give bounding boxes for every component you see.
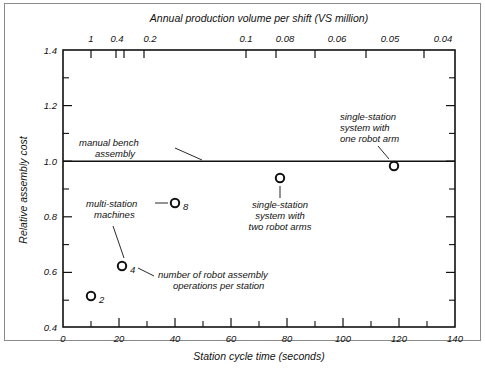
y-tick-label-1p2: 1.2: [44, 100, 58, 111]
two-arms-line2: system with: [255, 210, 305, 221]
annotation-manual-bench-assembly: manual bench assembly: [79, 137, 202, 160]
y-tick-label-1p0: 1.0: [44, 156, 58, 167]
top-tick-label-0p06: 0.06: [328, 33, 347, 44]
x-tick-label-100: 100: [335, 333, 352, 344]
y-tick-label-0p6: 0.6: [44, 266, 58, 277]
robot-operations-line1: number of robot assembly: [158, 269, 269, 280]
top-tick-label-0p2: 0.2: [143, 33, 157, 44]
top-tick-label-0p08: 0.08: [276, 33, 295, 44]
robot-operations-leader: [138, 268, 154, 276]
y-tick-label-0p4: 0.4: [44, 322, 57, 333]
x-tick-label-140: 140: [447, 333, 464, 344]
y-axis-minor-ticks: [63, 78, 69, 300]
top-tick-label-0p04: 0.04: [434, 33, 453, 44]
top-tick-label-0p1: 0.1: [239, 33, 252, 44]
data-point-label-2: 2: [98, 294, 105, 305]
x-tick-label-60: 60: [226, 333, 237, 344]
x-tick-label-0: 0: [60, 333, 66, 344]
annotation-multi-station-machines: multi-station machines: [86, 198, 168, 258]
y-axis-title: Relative assembly cost: [17, 135, 29, 243]
annotation-single-station-one-arm: single-station system with one robot arm: [340, 111, 399, 159]
manual-bench-assembly-line1: manual bench: [79, 137, 139, 148]
x-axis-tick-labels: 0 20 40 60 80 100 120 140: [60, 333, 463, 344]
data-point-label-4: 4: [130, 264, 135, 275]
figure-container: Annual production volume per shift (VS m…: [0, 0, 485, 377]
annotation-single-station-two-arms: single-station system with two robot arm…: [249, 186, 312, 232]
top-tick-label-0p4: 0.4: [110, 33, 123, 44]
data-point-one-robot-arm[interactable]: [390, 162, 398, 170]
data-point-label-8: 8: [183, 201, 189, 212]
top-tick-label-1: 1: [88, 33, 93, 44]
top-axis-ticks: [91, 50, 424, 58]
multi-station-machines-line2: machines: [94, 209, 135, 220]
x-axis-title: Station cycle time (seconds): [193, 350, 324, 362]
data-point-8-operations[interactable]: [171, 199, 179, 207]
x-tick-label-20: 20: [113, 333, 125, 344]
robot-operations-line2: operations per station: [173, 280, 264, 291]
one-arm-leader: [378, 146, 389, 159]
multi-station-machines-line1: multi-station: [86, 198, 137, 209]
x-tick-label-120: 120: [391, 333, 408, 344]
two-arms-line1: single-station: [252, 199, 308, 210]
data-point-4-operations[interactable]: [118, 262, 126, 270]
x-tick-label-40: 40: [170, 333, 181, 344]
annotation-number-of-robot-operations: number of robot assembly operations per …: [138, 268, 269, 291]
y-tick-label-0p8: 0.8: [44, 211, 58, 222]
two-arms-line3: two robot arms: [249, 221, 312, 232]
top-axis-tick-labels: 1 0.4 0.2 0.1 0.08 0.06 0.05 0.04: [88, 33, 452, 44]
data-point-two-robot-arms[interactable]: [276, 174, 284, 182]
manual-bench-assembly-line2: assembly: [95, 148, 136, 159]
assembly-cost-chart: Annual production volume per shift (VS m…: [0, 0, 485, 377]
top-axis-title: Annual production volume per shift (VS m…: [149, 12, 368, 24]
top-tick-label-0p05: 0.05: [381, 33, 400, 44]
x-axis-minor-ticks: [91, 321, 427, 327]
one-arm-line2: system with: [340, 122, 390, 133]
x-tick-label-80: 80: [282, 333, 293, 344]
manual-bench-assembly-leader: [175, 148, 202, 160]
right-axis-ticks: [446, 78, 455, 300]
data-point-2-operations[interactable]: [87, 292, 95, 300]
y-tick-label-1p4: 1.4: [44, 45, 57, 56]
one-arm-line1: single-station: [340, 111, 396, 122]
one-arm-line3: one robot arm: [340, 133, 399, 144]
multi-station-machines-leader-to-4: [113, 226, 124, 258]
y-axis-tick-labels: 1.4 1.2 1.0 0.8 0.6 0.4: [44, 45, 58, 333]
